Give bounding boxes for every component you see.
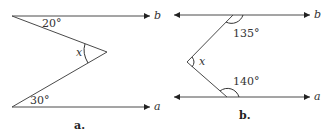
transversal-lower: [12, 52, 107, 107]
angle-bottom-label: 30°: [30, 94, 50, 107]
caption-a: a.: [74, 119, 85, 132]
angle-135-label: 135°: [233, 27, 260, 40]
line-b-label: b: [314, 8, 321, 21]
parallel-lines-diagram: b a 20° 30° x a. b a 135° 140° x b.: [0, 0, 328, 137]
angle-top-label: 20°: [42, 17, 62, 30]
transversal-lower: [187, 62, 227, 97]
angle-140-arc: [220, 88, 239, 97]
vertex-angle-arc: [192, 57, 194, 67]
vertex-x-label: x: [76, 46, 83, 59]
figure-b: b a 135° 140° x b.: [174, 8, 321, 122]
line-a-label: a: [314, 90, 321, 103]
vertex-angle-arc: [84, 44, 88, 63]
line-a-label: a: [154, 100, 161, 113]
angle-140-label: 140°: [233, 75, 260, 88]
figure-a: b a 20° 30° x a.: [12, 9, 161, 132]
caption-b: b.: [239, 109, 251, 122]
line-b-label: b: [154, 9, 161, 22]
vertex-x-label: x: [199, 55, 206, 68]
